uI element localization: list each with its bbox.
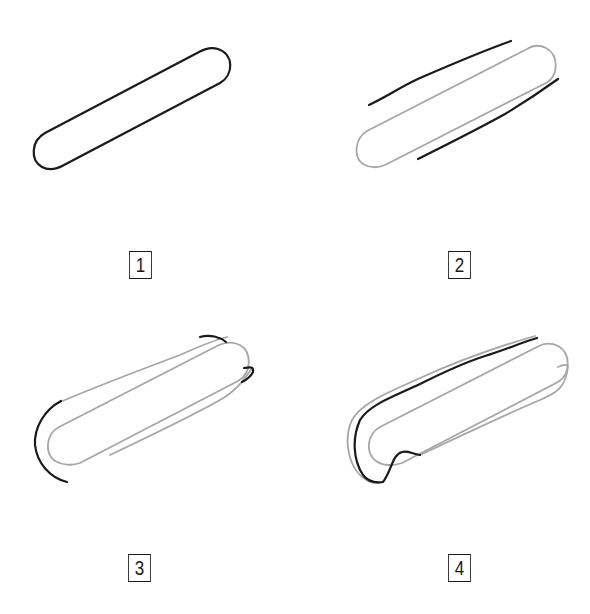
step-number-2: 2 <box>448 251 471 279</box>
tutorial-diagram <box>0 0 590 614</box>
step-1-drawing <box>34 48 231 169</box>
step-3-drawing <box>35 336 253 482</box>
step-number-text: 4 <box>455 558 464 578</box>
upper-parallel-line <box>369 41 511 105</box>
left-end-arc <box>35 401 67 482</box>
capsule-outline <box>34 48 231 169</box>
step-number-text: 3 <box>135 558 144 578</box>
upper-shell-guide <box>60 337 227 402</box>
refined-contour-line <box>355 338 537 482</box>
step-number-text: 1 <box>136 255 145 275</box>
step-2-drawing <box>357 41 558 167</box>
step-4-drawing <box>348 336 568 483</box>
step-number-4: 4 <box>448 554 471 582</box>
lower-parallel-line <box>418 79 558 159</box>
inner-capsule-guide <box>48 343 249 465</box>
step-number-1: 1 <box>129 251 152 279</box>
step-number-3: 3 <box>128 554 151 582</box>
capsule-guide <box>357 46 556 167</box>
step-number-text: 2 <box>455 255 464 275</box>
